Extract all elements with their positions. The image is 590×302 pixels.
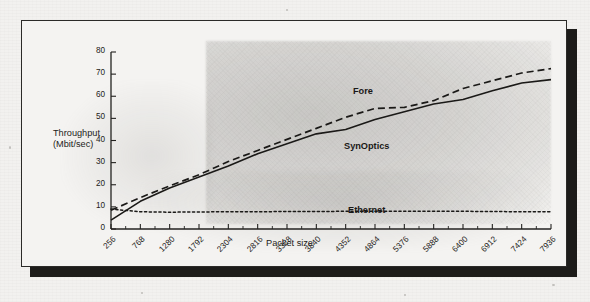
y-tick-label: 0 <box>85 224 105 233</box>
series-label-ethernet: Ethernet <box>348 206 385 216</box>
y-tick-label: 30 <box>85 158 105 167</box>
scan-speck <box>404 294 406 296</box>
y-tick-label: 10 <box>85 202 105 211</box>
chart-figure: Throughput (Mbit/sec) Packet size Fore S… <box>21 20 567 267</box>
y-tick-label: 80 <box>85 47 105 56</box>
y-tick-label: 60 <box>85 91 105 100</box>
scan-speck <box>552 284 555 286</box>
series-label-fore: Fore <box>353 87 373 97</box>
series-line-synoptics <box>111 80 551 220</box>
y-tick-label: 20 <box>85 180 105 189</box>
scan-speck <box>286 9 288 11</box>
y-axis-ticks <box>111 52 116 229</box>
scanned-page: Throughput (Mbit/sec) Packet size Fore S… <box>0 0 590 302</box>
y-tick-label: 50 <box>85 113 105 122</box>
axis-lines <box>111 52 551 229</box>
y-tick-label: 40 <box>85 136 105 145</box>
scan-speck <box>9 146 11 149</box>
series-line-ethernet <box>111 209 551 212</box>
series-line-fore <box>111 69 551 211</box>
series-label-synoptics: SynOptics <box>344 142 389 152</box>
y-tick-label: 70 <box>85 69 105 78</box>
scan-speck <box>141 292 143 294</box>
